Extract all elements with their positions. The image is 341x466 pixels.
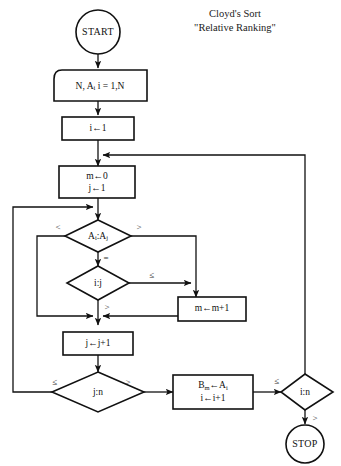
edge-label-a-greater: > <box>136 222 141 232</box>
chart-title-line2: "Relative Ranking" <box>194 22 276 33</box>
node-cmp-a-label: Ai:Aj <box>88 231 108 242</box>
node-inc-j-label: j←j+1 <box>85 338 111 348</box>
node-input-label: N, Ai i = 1,N <box>76 81 125 92</box>
edge-label-a-less: < <box>55 222 60 232</box>
edge-label-in-le: ≤ <box>275 376 280 386</box>
node-cmp-in-label: i:n <box>300 387 310 397</box>
flowchart-canvas: Cloyd's Sort "Relative Ranking" <box>0 0 341 466</box>
edge-label-a-equal: = <box>103 253 108 263</box>
flowchart-svg: Cloyd's Sort "Relative Ranking" <box>0 0 341 466</box>
node-stop-label: STOP <box>292 438 318 449</box>
chart-title-line1: Cloyd's Sort <box>209 8 261 19</box>
edge-label-jn-le: ≤ <box>53 377 58 387</box>
node-init-i-label: i←1 <box>90 123 107 133</box>
node-assign-b-line2: i←i+1 <box>201 393 226 403</box>
node-init-mj-line1: m←0 <box>86 171 108 181</box>
edge-label-jn-gt: > <box>125 377 130 387</box>
node-start-label: START <box>82 26 114 37</box>
node-assign-b-line1: Bm←Ai <box>198 380 228 391</box>
node-cmp-ij-label: i:j <box>94 278 102 288</box>
node-cmp-jn-label: j:n <box>92 387 103 397</box>
node-init-mj-line2: j←1 <box>88 183 106 193</box>
edge-label-ij-le: ≤ <box>150 270 155 280</box>
edge-label-in-gt: > <box>312 413 317 423</box>
node-inc-m-label: m←m+1 <box>195 303 230 313</box>
edge-label-ij-gt: > <box>104 302 109 312</box>
edge-cmp-a-gt-to-inc-m <box>131 236 196 297</box>
